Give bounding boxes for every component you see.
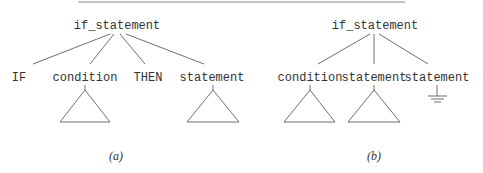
tree-a-child-if: IF	[12, 71, 26, 85]
ground-empty-icon	[428, 85, 447, 102]
tree-a-child-then: THEN	[134, 71, 163, 85]
subtree-triangle-icon	[284, 85, 335, 122]
subtree-triangle-icon	[60, 85, 110, 122]
tree-a-root-label: if_statement	[74, 19, 160, 33]
tree-b-root-label: if_statement	[332, 19, 418, 33]
tree-a-child-statement: statement	[180, 71, 245, 85]
tree-b: if_statement condition statement stateme…	[278, 19, 470, 163]
caption-a: (a)	[109, 149, 123, 163]
subtree-triangle-icon	[348, 85, 400, 122]
parse-tree-figure: if_statement IF condition THEN statement…	[0, 0, 483, 173]
tree-a: if_statement IF condition THEN statement…	[12, 19, 245, 163]
subtree-triangle-icon	[187, 85, 239, 122]
edge-b-condition	[318, 34, 370, 64]
edge-a-condition	[90, 34, 114, 64]
caption-b: (b)	[367, 149, 381, 163]
tree-a-child-condition: condition	[53, 71, 118, 85]
tree-b-child-condition: condition	[278, 71, 343, 85]
edge-a-statement	[126, 34, 204, 64]
tree-b-child-statement: statement	[342, 71, 407, 85]
tree-b-child-statement-empty: statement	[405, 71, 470, 85]
edge-a-then	[120, 34, 145, 64]
edge-a-if	[33, 34, 110, 64]
edge-b-statement-empty	[379, 34, 428, 64]
